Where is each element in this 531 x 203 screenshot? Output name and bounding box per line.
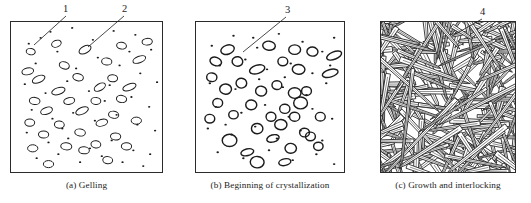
- callout-number-4: 4: [480, 6, 485, 17]
- panel-c-caption: (c) Growth and interlocking: [370, 180, 526, 191]
- panel-a-microstructure: [11, 22, 162, 172]
- panel-c-growth-and-interlocking: [380, 21, 516, 173]
- panel-b-microstructure: [196, 22, 344, 172]
- panel-b-beginning-of-crystallization: [195, 21, 345, 173]
- panel-b-caption: (b) Beginning of crystallization: [185, 180, 355, 191]
- callout-number-2: 2: [122, 3, 127, 14]
- panel-a-caption: (a) Gelling: [10, 180, 163, 191]
- panel-a-gelling: [10, 21, 163, 173]
- callout-number-3: 3: [285, 4, 290, 15]
- panel-c-microstructure: [381, 22, 515, 172]
- crystallization-stages-figure: (a) Gelling (b) Beginning of crystalliza…: [0, 0, 531, 203]
- callout-number-1: 1: [63, 3, 68, 14]
